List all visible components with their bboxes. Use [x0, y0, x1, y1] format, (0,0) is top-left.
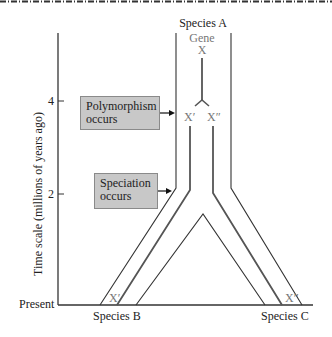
speciation-line2: occurs: [100, 190, 152, 203]
tree-outer-right: [231, 33, 302, 305]
allele-x-prime-label: X′: [184, 111, 195, 124]
polymorphism-line2: occurs: [86, 113, 154, 126]
gene-fork: [195, 100, 209, 106]
tree-outer-left: [100, 33, 176, 305]
tick-label-4: 4: [48, 95, 54, 108]
present-label: Present: [19, 298, 54, 311]
y-axis-label: Time scale (millions of years ago): [31, 112, 46, 276]
allele-x-double-prime-label: X″: [207, 111, 221, 124]
allele-c-label: X″: [285, 292, 299, 305]
speciation-arrowhead: [166, 188, 172, 194]
polymorphism-box: Polymorphism occurs: [80, 96, 160, 130]
species-c-label: Species C: [261, 310, 309, 323]
allele-b-label: X′: [109, 292, 120, 305]
polymorphism-arrowhead: [169, 110, 175, 116]
gene-symbol: X: [192, 44, 212, 57]
tick-label-2: 2: [48, 188, 54, 201]
gene-x-prime-lineage: [117, 126, 190, 305]
tree-inner-v: [136, 214, 265, 305]
species-a-label: Species A: [175, 17, 231, 30]
species-b-label: Species B: [93, 310, 141, 323]
gene-tree-diagram: [0, 0, 332, 337]
speciation-box: Speciation occurs: [94, 173, 158, 209]
